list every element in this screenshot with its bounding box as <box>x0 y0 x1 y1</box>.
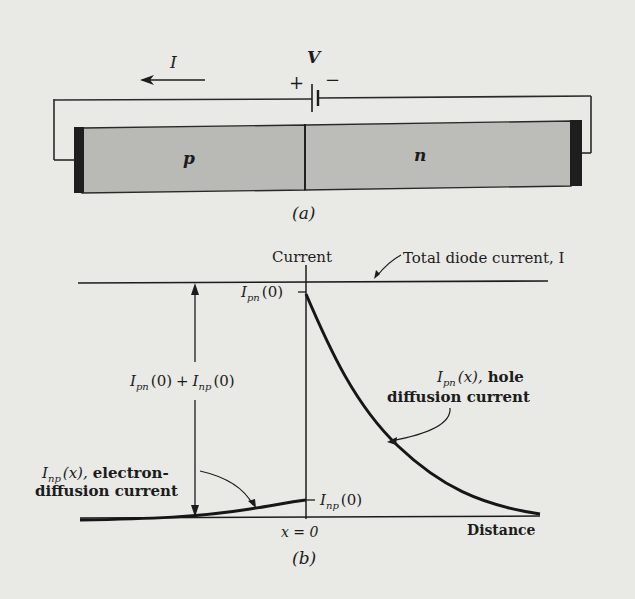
circuit-diagram: V + − I p n (a) <box>54 47 591 223</box>
n-region <box>305 121 571 190</box>
hole-curve-label-line1: Ipn(x),hole <box>436 368 524 388</box>
total-current-annotation: Total diode current, I <box>403 249 565 267</box>
caption-b: (b) <box>292 548 316 568</box>
battery-plus-sign: + <box>289 72 304 93</box>
pn-bar <box>74 120 582 193</box>
hole-curve-label-line2: diffusion current <box>387 388 530 406</box>
sum-label: Ipn(0)+Inp(0) <box>129 372 235 392</box>
sum-dimension-arrow <box>191 283 199 517</box>
x-axis-label: Distance <box>467 522 536 538</box>
current-distribution-plot: Current Distance x = 0 Total diode curre… <box>35 248 565 568</box>
total-current-line <box>78 281 548 283</box>
current-direction-arrow <box>140 75 205 85</box>
top-wire <box>54 99 312 100</box>
electron-curve-label-line1: Inp(x),electron- <box>41 464 169 484</box>
left-electrode <box>74 127 84 193</box>
p-region-label: p <box>183 148 195 168</box>
caption-a: (a) <box>292 203 315 223</box>
pn-junction-figure: V + − I p n (a) Current Distance x = 0 T… <box>0 0 635 599</box>
n-region-label: n <box>414 145 426 165</box>
total-current-pointer <box>377 255 401 276</box>
current-label: I <box>169 52 177 72</box>
hole-curve-pointer <box>390 408 450 441</box>
ipn0-label: Ipn(0) <box>240 283 283 303</box>
origin-label: x = 0 <box>281 524 319 540</box>
right-electrode <box>570 120 582 186</box>
voltage-label: V <box>307 47 322 67</box>
battery-icon <box>312 84 318 112</box>
electron-curve-label-line2: diffusion current <box>35 482 178 500</box>
battery-minus-sign: − <box>325 69 340 90</box>
electron-curve-pointer <box>200 471 253 505</box>
top-wire-right <box>318 96 591 98</box>
y-axis-label: Current <box>272 248 332 266</box>
inp0-label: Inp(0) <box>319 491 362 511</box>
